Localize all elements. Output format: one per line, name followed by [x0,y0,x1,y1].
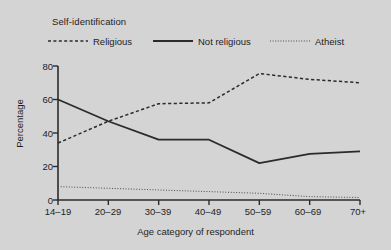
x-tick-label-6: 70+ [335,206,381,217]
y-tick-label-4: 0 [27,195,53,206]
x-axis-title: Age category of respondent [0,226,391,237]
series-line-not-religious [58,100,360,164]
chart-figure: Self-identification Religious Not religi… [0,0,391,250]
series-line-atheist [58,187,360,198]
x-tick-label-5: 60–69 [285,206,331,217]
y-tick-label-1: 60 [27,94,53,105]
x-tick-label-4: 50–59 [235,206,281,217]
series-line-religious [58,74,360,144]
x-tick-label-0: 14–19 [35,206,81,217]
x-tick-label-3: 40–49 [185,206,231,217]
y-axis-title: Percentage [14,84,25,164]
y-tick-label-2: 40 [27,128,53,139]
x-tick-label-2: 30–39 [135,206,181,217]
y-tick-label-3: 20 [27,161,53,172]
x-tick-label-1: 20–29 [85,206,131,217]
y-tick-label-0: 80 [27,61,53,72]
